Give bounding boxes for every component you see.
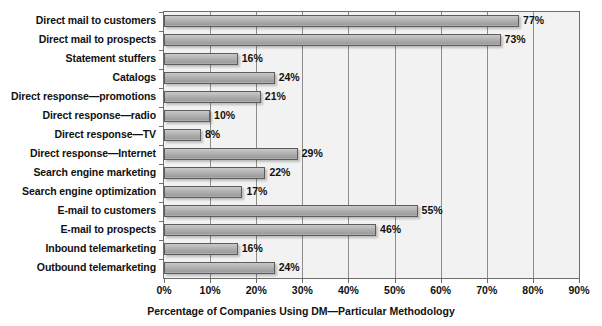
bar[interactable] (164, 129, 201, 141)
bar-value-label: 55% (418, 203, 443, 218)
x-axis-tick-label: 30% (292, 284, 313, 297)
bar-value-label: 73% (501, 32, 526, 47)
x-axis: 0%10%20%30%40%50%60%70%80%90% (163, 279, 580, 301)
bar-value-label: 17% (242, 184, 267, 199)
category-label: E-mail to customers (0, 205, 156, 216)
x-axis-tick (302, 279, 303, 283)
x-axis-title: Percentage of Companies Using DM—Particu… (0, 305, 602, 317)
bar-row: 17% (164, 183, 579, 202)
category-tick (159, 259, 164, 260)
bar-value-label: 22% (265, 165, 290, 180)
bar-row: 24% (164, 69, 579, 88)
category-tick (159, 88, 164, 89)
bar-value-label: 24% (275, 70, 300, 85)
bar-value-label: 21% (261, 89, 286, 104)
category-tick (159, 164, 164, 165)
bar-row: 22% (164, 164, 579, 183)
category-label: Direct response—TV (0, 129, 156, 140)
category-tick (159, 107, 164, 108)
category-tick (159, 145, 164, 146)
bar[interactable] (164, 110, 210, 122)
x-axis-tick (395, 279, 396, 283)
bar[interactable] (164, 167, 265, 179)
category-label: Inbound telemarketing (0, 243, 156, 254)
bar-chart: Direct mail to customersDirect mail to p… (0, 0, 602, 326)
bar-value-label: 8% (201, 127, 220, 142)
bar[interactable] (164, 148, 298, 160)
category-label: Direct response—radio (0, 110, 156, 121)
bar[interactable] (164, 15, 519, 27)
x-axis-tick (487, 279, 488, 283)
x-axis-tick-label: 90% (568, 284, 589, 297)
x-axis-tick (256, 279, 257, 283)
bar-value-label: 29% (298, 146, 323, 161)
category-label: Direct mail to customers (0, 15, 156, 26)
category-label: Catalogs (0, 72, 156, 83)
bar-row: 46% (164, 221, 579, 240)
bar-value-label: 46% (376, 222, 401, 237)
category-label: Direct response—promotions (0, 91, 156, 102)
x-axis-tick (348, 279, 349, 283)
bar-value-label: 10% (210, 108, 235, 123)
category-label: Search engine marketing (0, 167, 156, 178)
bar[interactable] (164, 186, 242, 198)
category-tick (159, 183, 164, 184)
category-label: Statement stuffers (0, 53, 156, 64)
x-axis-tick-label: 20% (246, 284, 267, 297)
x-axis-tick-label: 60% (430, 284, 451, 297)
bar[interactable] (164, 262, 275, 274)
category-label: Direct response—Internet (0, 148, 156, 159)
bar-row: 55% (164, 202, 579, 221)
bar-value-label: 16% (238, 241, 263, 256)
category-label: Outbound telemarketing (0, 262, 156, 273)
bar[interactable] (164, 224, 376, 236)
bar[interactable] (164, 53, 238, 65)
bar-row: 10% (164, 107, 579, 126)
x-axis-tick-label: 50% (384, 284, 405, 297)
x-axis-tick-label: 10% (200, 284, 221, 297)
x-axis-tick (533, 279, 534, 283)
category-tick (159, 12, 164, 13)
category-label: E-mail to prospects (0, 224, 156, 235)
x-axis-tick (441, 279, 442, 283)
x-axis-tick (164, 279, 165, 283)
category-label: Direct mail to prospects (0, 34, 156, 45)
x-axis-tick (579, 279, 580, 283)
bar[interactable] (164, 243, 238, 255)
x-axis-tick-label: 40% (338, 284, 359, 297)
category-tick (159, 202, 164, 203)
bar-row: 21% (164, 88, 579, 107)
bar[interactable] (164, 91, 261, 103)
bar-row: 16% (164, 50, 579, 69)
bar[interactable] (164, 72, 275, 84)
x-axis-tick-label: 80% (522, 284, 543, 297)
category-tick (159, 126, 164, 127)
bar-row: 73% (164, 31, 579, 50)
category-tick (159, 221, 164, 222)
bar-value-label: 16% (238, 51, 263, 66)
bar-row: 77% (164, 12, 579, 31)
plot-area: 77%73%16%24%21%10%8%29%22%17%55%46%16%24… (163, 11, 580, 279)
category-tick (159, 69, 164, 70)
category-tick (159, 50, 164, 51)
category-tick (159, 31, 164, 32)
x-axis-tick (210, 279, 211, 283)
x-axis-tick-label: 0% (156, 284, 171, 297)
bar[interactable] (164, 34, 501, 46)
bar-row: 24% (164, 259, 579, 278)
bar-value-label: 77% (519, 13, 544, 28)
bar-row: 16% (164, 240, 579, 259)
x-axis-tick-label: 70% (476, 284, 497, 297)
bar[interactable] (164, 205, 418, 217)
category-tick (159, 240, 164, 241)
bar-value-label: 24% (275, 260, 300, 275)
category-axis: Direct mail to customersDirect mail to p… (0, 11, 160, 279)
category-label: Search engine optimization (0, 186, 156, 197)
bar-row: 8% (164, 126, 579, 145)
bar-row: 29% (164, 145, 579, 164)
